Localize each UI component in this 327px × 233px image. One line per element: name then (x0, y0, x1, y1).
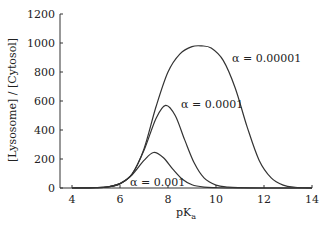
ann-alpha-00001: α = 0.0001 (181, 98, 243, 111)
ann-alpha-0001: α = 0.001 (130, 176, 185, 189)
x-axis-label: pKa (176, 206, 196, 221)
series-line-1 (72, 105, 312, 188)
curves (72, 46, 312, 188)
series-line-2 (72, 46, 312, 188)
y-tick-label: 800 (34, 66, 55, 79)
x-tick-label: 10 (209, 193, 223, 206)
y-tick-label: 600 (34, 95, 55, 108)
y-tick-label: 0 (48, 182, 55, 195)
y-tick-label: 1000 (27, 37, 55, 50)
y-tick-label: 400 (34, 124, 55, 137)
x-axis-label-main: pK (176, 206, 192, 219)
ann-alpha-000001: α = 0.00001 (232, 52, 301, 65)
line-chart: 020040060080010001200468101214 α = 0.001… (0, 0, 327, 233)
x-axis-label-sub: a (191, 212, 196, 221)
x-tick-label: 6 (117, 193, 124, 206)
y-axis-label: [Lysosome] / [Cytosol] (6, 38, 19, 162)
y-tick-label: 1200 (27, 8, 55, 21)
y-tick-label: 200 (34, 153, 55, 166)
x-tick-label: 4 (69, 193, 76, 206)
x-tick-label: 14 (305, 193, 319, 206)
x-tick-label: 8 (165, 193, 172, 206)
x-tick-label: 12 (257, 193, 271, 206)
